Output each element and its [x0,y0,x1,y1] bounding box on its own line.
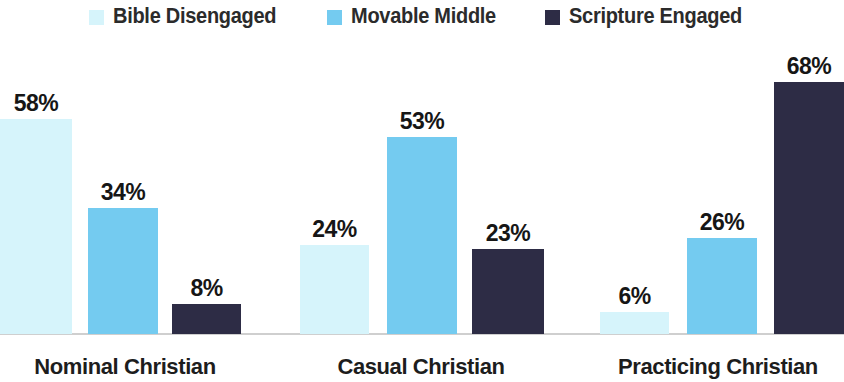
bar-value-label: 6% [618,285,650,308]
bar[interactable]: 58% [0,119,72,334]
bar-value-label: 68% [787,55,832,78]
bar[interactable]: 8% [172,304,241,334]
legend-item[interactable]: Scripture Engaged [545,6,755,28]
category-axis-label: Nominal Christian [0,356,250,378]
bar[interactable]: 6% [600,312,669,334]
bar[interactable]: 53% [387,137,457,334]
bar-value-label: 24% [312,218,357,241]
legend-item-label: Scripture Engaged [569,6,742,28]
legend-item-label: Movable Middle [351,6,496,28]
grouped-bar-chart: Bible DisengagedMovable MiddleScripture … [0,0,844,382]
square-swatch-icon [89,10,104,25]
bar[interactable]: 34% [88,208,158,334]
bar-value-label: 58% [14,92,59,115]
legend-item[interactable]: Movable Middle [327,6,507,28]
bar-value-label: 34% [101,181,146,204]
square-swatch-icon [327,10,342,25]
category-axis-label: Practicing Christian [592,356,844,378]
bar-value-label: 23% [486,222,531,245]
bar[interactable]: 24% [300,245,369,334]
bar-value-label: 8% [190,277,222,300]
legend-item-label: Bible Disengaged [113,6,276,28]
bar-value-label: 53% [400,110,445,133]
square-swatch-icon [545,10,560,25]
bar[interactable]: 68% [774,82,844,334]
bar[interactable]: 23% [472,249,544,334]
chart-legend: Bible DisengagedMovable MiddleScripture … [0,0,844,34]
bar-value-label: 26% [700,211,745,234]
bar[interactable]: 26% [687,238,757,334]
category-axis-label: Casual Christian [296,356,546,378]
chart-plot-area: 58%34%8%24%53%23%6%26%68%Nominal Christi… [0,34,844,382]
legend-item[interactable]: Bible Disengaged [89,6,289,28]
